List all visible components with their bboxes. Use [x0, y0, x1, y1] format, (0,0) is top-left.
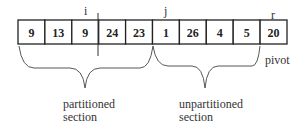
array-cell-value: 9	[28, 26, 34, 40]
unpartitioned-section-label: unpartitioned section	[179, 98, 243, 124]
r-marker: r	[271, 9, 275, 21]
array-cells: 913924231264520	[18, 20, 287, 44]
array-cell-value: 24	[106, 26, 118, 40]
array-cell-value: 26	[187, 26, 199, 40]
array-cell-value: 13	[52, 26, 64, 40]
array-cell-value: 9	[82, 26, 88, 40]
array-cell-value: 23	[133, 26, 145, 40]
partitioned-section-label: partitioned section	[63, 98, 115, 124]
j-marker: j	[164, 5, 167, 17]
unpartitioned-brace	[153, 46, 260, 88]
unpartitioned-line2: section	[179, 111, 243, 124]
array-cell-value: 5	[244, 26, 250, 40]
array-cell-value: 20	[268, 26, 280, 40]
partitioned-brace	[19, 46, 153, 88]
pivot-label: pivot	[265, 54, 290, 66]
array-diagram: 913924231264520	[0, 0, 302, 128]
array-cell-value: 4	[217, 26, 223, 40]
partitioned-line2: section	[63, 111, 115, 124]
array-cell-value: 1	[163, 26, 169, 40]
i-marker: i	[84, 5, 87, 17]
